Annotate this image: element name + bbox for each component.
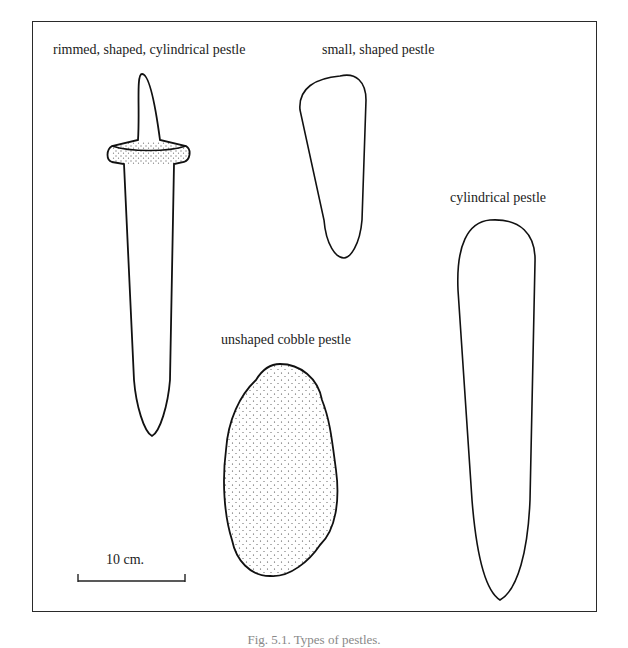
cylindrical-pestle-drawing: [455, 215, 540, 605]
rimmed-pestle-drawing: [100, 70, 200, 450]
scale-bar: [78, 574, 185, 582]
small-pestle-drawing: [296, 70, 371, 265]
cobble-pestle-drawing: [220, 360, 340, 580]
figure-caption: Fig. 5.1. Types of pestles.: [0, 632, 628, 648]
